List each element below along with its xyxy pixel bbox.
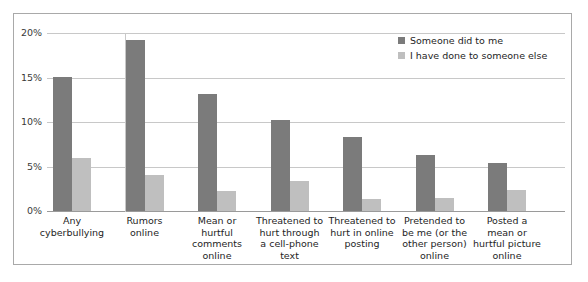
x-category-label: Mean orhurtfulcommentsonline (180, 215, 254, 261)
bar-i-have-done (217, 191, 236, 211)
bar-someone-did-to-me (271, 120, 290, 211)
legend-swatch-icon (398, 52, 405, 59)
bar-i-have-done (362, 199, 381, 211)
x-category-label: Pretended tobe me (or theother person)on… (398, 215, 472, 261)
bar-someone-did-to-me (416, 155, 435, 211)
legend-label: Someone did to me (410, 33, 503, 48)
bar-someone-did-to-me (343, 137, 362, 211)
y-tick-label: 15% (0, 73, 42, 83)
legend-item: Someone did to me (398, 33, 547, 48)
bar-i-have-done (72, 158, 91, 211)
y-tick-label: 20% (0, 28, 42, 38)
legend-swatch-icon (398, 37, 405, 44)
bar-i-have-done (290, 181, 309, 211)
x-category-label: Anycyberbullying (35, 215, 109, 238)
chart-legend: Someone did to meI have done to someone … (398, 33, 547, 63)
bar-someone-did-to-me (198, 94, 217, 211)
chart-container: 0%5%10%15%20% AnycyberbullyingRumorsonli… (0, 0, 588, 282)
legend-item: I have done to someone else (398, 48, 547, 63)
bar-i-have-done (145, 175, 164, 211)
bar-someone-did-to-me (126, 40, 145, 211)
bar-i-have-done (435, 198, 454, 211)
legend-label: I have done to someone else (410, 48, 547, 63)
x-category-label: Threatened tohurt througha cell-phonetex… (253, 215, 327, 261)
bar-someone-did-to-me (488, 163, 507, 211)
x-category-label: Rumorsonline (108, 215, 182, 238)
bar-i-have-done (507, 190, 526, 211)
bar-someone-did-to-me (53, 77, 72, 211)
x-category-label: Posted amean orhurtful pictureonline (470, 215, 544, 261)
y-tick-label: 10% (0, 117, 42, 127)
x-category-label: Threatened tohurt in onlineposting (325, 215, 399, 250)
y-tick-label: 5% (0, 162, 42, 172)
